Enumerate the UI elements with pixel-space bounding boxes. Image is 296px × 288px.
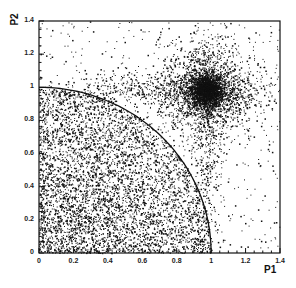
x-tick-label: 0.4 [102, 257, 114, 264]
x-axis-title: P1 [264, 264, 276, 275]
y-tick-label: 1 [16, 82, 34, 89]
y-tick-label: 0 [16, 248, 34, 255]
x-tick-label: 0.2 [67, 257, 79, 264]
y-tick-label: 0.6 [16, 149, 34, 156]
y-tick-label: 0.2 [16, 215, 34, 222]
x-tick-label: 0.6 [136, 257, 148, 264]
y-tick-label: 1.2 [16, 49, 34, 56]
x-tick-label: 1.2 [240, 257, 252, 264]
y-axis-title: P2 [9, 13, 20, 25]
x-tick-label: 0.8 [171, 257, 183, 264]
scatter-plot [0, 0, 296, 288]
y-tick-label: 0.4 [16, 182, 34, 189]
x-tick-label: 1 [205, 257, 217, 264]
y-tick-label: 0.8 [16, 115, 34, 122]
scatter-points [39, 21, 280, 254]
x-tick-label: 0 [33, 257, 45, 264]
x-tick-label: 1.4 [274, 257, 286, 264]
